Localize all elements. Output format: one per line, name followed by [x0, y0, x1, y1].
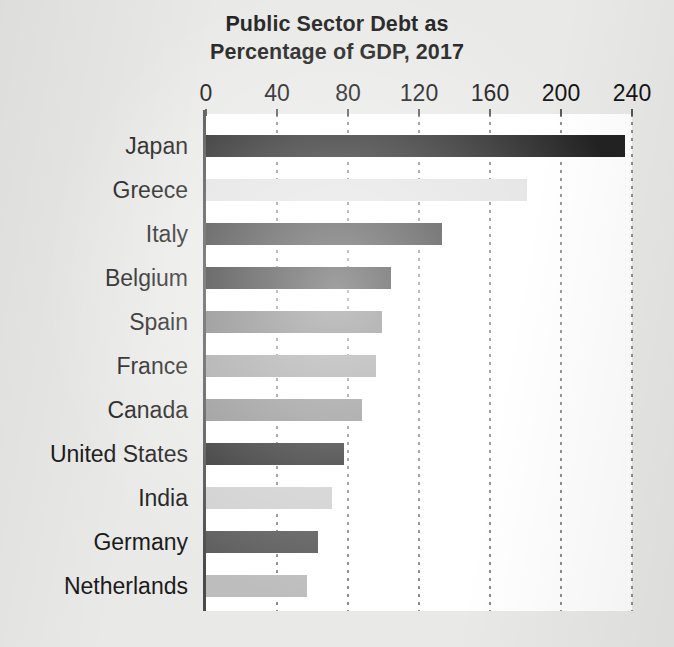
chart-title-line-2: Percentage of GDP, 2017	[0, 38, 674, 66]
category-label: India	[0, 487, 200, 510]
bar	[206, 575, 307, 597]
category-label: Spain	[0, 311, 200, 334]
bar	[206, 399, 362, 421]
x-tick-label: 160	[471, 82, 509, 105]
bar	[206, 355, 376, 377]
category-label: Italy	[0, 223, 200, 246]
plot-area	[206, 114, 632, 611]
bar	[206, 135, 625, 157]
x-tick-label: 0	[200, 82, 213, 105]
x-tick-mark	[631, 109, 633, 116]
x-tick-mark	[489, 109, 491, 116]
category-label: United States	[0, 443, 200, 466]
x-tick-mark	[418, 109, 420, 116]
bars-layer	[206, 114, 632, 611]
x-tick-mark	[276, 109, 278, 116]
bar	[206, 223, 442, 245]
bar	[206, 311, 382, 333]
bar-row	[206, 531, 318, 553]
bar-row	[206, 223, 442, 245]
bar	[206, 267, 391, 289]
bar	[206, 179, 527, 201]
bar-row	[206, 487, 332, 509]
x-tick-mark	[560, 109, 562, 116]
category-label: Japan	[0, 135, 200, 158]
chart-title: Public Sector Debt as Percentage of GDP,…	[0, 10, 674, 67]
category-label: Germany	[0, 531, 200, 554]
bar-row	[206, 311, 382, 333]
bar	[206, 487, 332, 509]
bar	[206, 531, 318, 553]
y-axis-line	[203, 110, 206, 611]
category-label: Netherlands	[0, 575, 200, 598]
category-label: Canada	[0, 399, 200, 422]
x-tick-label: 240	[613, 82, 651, 105]
bar-row	[206, 179, 527, 201]
bar-row	[206, 267, 391, 289]
bar-row	[206, 575, 307, 597]
bar-row	[206, 443, 344, 465]
category-label: Greece	[0, 179, 200, 202]
bar-row	[206, 399, 362, 421]
bar-chart-figure: Public Sector Debt as Percentage of GDP,…	[0, 0, 674, 647]
category-label: Belgium	[0, 267, 200, 290]
x-tick-mark	[347, 109, 349, 116]
x-tick-label: 40	[264, 82, 290, 105]
bar-row	[206, 135, 625, 157]
x-tick-label: 120	[400, 82, 438, 105]
bar	[206, 443, 344, 465]
bar-row	[206, 355, 376, 377]
chart-title-line-1: Public Sector Debt as	[0, 10, 674, 38]
category-label: France	[0, 355, 200, 378]
x-axis-tick-labels: 04080120160200240	[0, 82, 674, 110]
x-tick-label: 80	[335, 82, 361, 105]
x-tick-label: 200	[542, 82, 580, 105]
